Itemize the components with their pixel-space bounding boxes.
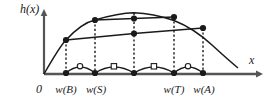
x-axis-arrowhead (256, 71, 263, 78)
y-axis (41, 9, 48, 74)
dashed-drop-lines (66, 13, 203, 73)
h-of-x-curve (44, 13, 238, 74)
point-mid-axis (131, 70, 137, 76)
apex-circle-marker-2 (185, 63, 190, 68)
y-axis-arrowhead (41, 9, 48, 16)
apex-square-marker-2 (151, 64, 156, 69)
point-mid-upper (131, 15, 137, 21)
point-wT-axis (171, 70, 177, 76)
y-axis-label: h(x) (20, 2, 39, 16)
tick-label-wS: w(S) (86, 83, 107, 96)
origin-label: 0 (36, 82, 42, 96)
point-wB-axis (63, 70, 69, 76)
point-wS-curve (92, 17, 98, 23)
point-wB-curve (63, 37, 69, 43)
function-plot-svg: h(x) x 0 w(B) w(S) w(T) w(A) (0, 0, 273, 100)
point-wA-axis (200, 70, 206, 76)
apex-square-marker-1 (111, 64, 116, 69)
point-wA-curve (200, 25, 206, 31)
figure-container: h(x) x 0 w(B) w(S) w(T) w(A) (0, 0, 273, 100)
tick-label-wT: w(T) (164, 83, 185, 96)
x-axis-label: x (248, 53, 255, 67)
apex-circle-marker-1 (77, 63, 82, 68)
tick-label-wA: w(A) (193, 83, 215, 96)
point-mid-lower (131, 30, 137, 36)
point-wS-axis (92, 70, 98, 76)
point-wT-curve (171, 14, 177, 20)
x-axis (44, 71, 263, 78)
tick-label-wB: w(B) (55, 83, 77, 96)
